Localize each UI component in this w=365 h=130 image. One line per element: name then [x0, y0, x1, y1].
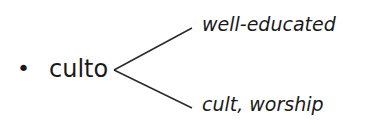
branch-line-lower [114, 70, 192, 108]
meaning-1: well-educated [202, 12, 336, 36]
meaning-2: cult, worship [202, 92, 324, 116]
branch-line-upper [114, 28, 192, 70]
